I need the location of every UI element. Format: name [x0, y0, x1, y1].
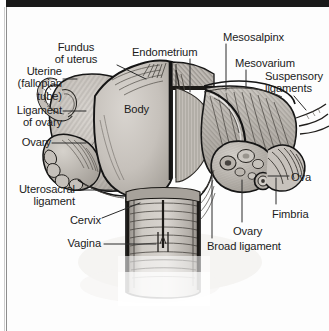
label-vagina: Vagina — [0, 237, 101, 249]
suspensory-strands — [296, 104, 329, 134]
label-ovary-left: Ovary — [0, 136, 51, 148]
label-cervix: Cervix — [0, 214, 101, 226]
label-suspensory-ligaments: Suspensory ligaments — [265, 70, 323, 95]
label-broad-ligament: Broad ligament — [207, 240, 281, 252]
label-uterosacral-ligament: Uterosacral ligament — [0, 183, 75, 208]
label-ligament-of-ovary: Ligament of ovary — [0, 104, 62, 129]
anatomy-figure: Fundus of uterus Endometrium Mesosalpinx… — [0, 0, 329, 331]
label-ovary-right: Ovary — [233, 225, 262, 237]
label-fimbria: Fimbria — [272, 208, 309, 220]
label-endometrium: Endometrium — [132, 46, 197, 58]
label-fundus-of-uterus: Fundus of uterus — [36, 41, 116, 66]
label-mesosalpinx: Mesosalpinx — [223, 31, 284, 43]
leader-suspensory-ligaments — [294, 96, 306, 110]
label-ova: Ova — [291, 171, 311, 183]
label-body: Body — [124, 103, 149, 115]
label-uterine-fallopian-tube: Uterine (fallopian tube) — [0, 65, 62, 102]
label-mesovarium: Mesovarium — [235, 57, 295, 69]
